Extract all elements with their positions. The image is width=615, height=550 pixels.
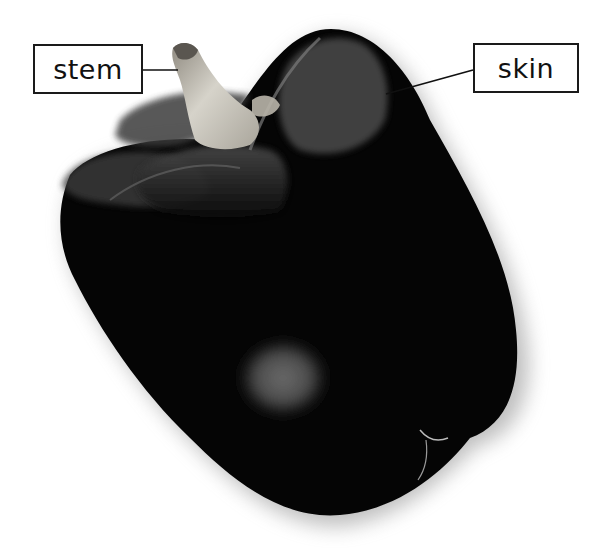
pepper-highlight [235,336,331,420]
stem-label-text: stem [53,54,123,85]
skin-label: skin [473,43,579,93]
stem-label: stem [33,44,143,94]
skin-label-text: skin [498,53,554,84]
